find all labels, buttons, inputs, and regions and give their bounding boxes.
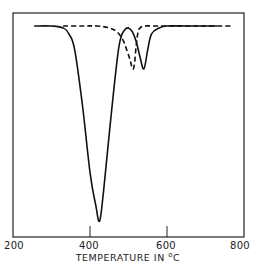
x-tick-label-600: 600 [156, 240, 176, 251]
x-axis-ticks [90, 226, 167, 237]
chart-plot [0, 0, 257, 267]
x-tick-label-800: 800 [230, 240, 250, 251]
x-axis-label: TEMPERATURE IN oC [76, 251, 180, 263]
x-tick-label-400: 400 [79, 240, 99, 251]
x-tick-label-200: 200 [4, 240, 24, 251]
solid-curve [34, 26, 217, 222]
plot-frame [13, 13, 244, 237]
